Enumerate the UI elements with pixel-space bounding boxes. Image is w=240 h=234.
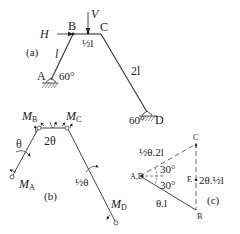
hinge-A-icon [10,175,14,179]
rotation-arc-AB-icon [16,151,30,156]
figure-c: A,D C ½θ.2l 30° 30° E 2θ.½l θ.l (c) B [130,133,224,221]
label-angle-upper: 30° [160,163,175,175]
diagram-canvas: H B V C ½l (a) l A 60° 2l 60° D MB MC [0,0,240,234]
label-length-BC: ½l [82,37,93,49]
label-MA: MA [18,177,35,192]
figure-c-tag: (c) [207,194,220,207]
label-AD: A,D [130,172,144,181]
label-length-CD: 2l [131,64,141,78]
load-point-dot [87,32,90,35]
label-displacement-AD-C: ½θ.2l [139,146,164,158]
label-A: A [37,69,46,83]
rotation-arc-BC-icon [50,122,56,128]
moment-arrow-B-icon [35,126,36,133]
joint-B-dot [72,33,75,36]
moment-arrow-C2-icon [70,124,72,128]
label-B: B [68,19,76,33]
moment-arrow-C-icon [62,123,65,126]
label-displacement-AD-B: θ.l [156,197,167,209]
deflected-member-CD [68,129,115,221]
moment-arrow-B2-icon [41,123,44,126]
point-E-dot [195,179,198,182]
label-MB: MB [21,109,37,124]
label-angle-lower: 30° [160,179,175,191]
label-length-AB: l [55,47,59,61]
figure-a-tag: (a) [26,46,39,59]
hinge-C-icon [65,126,69,130]
hinge-B-icon [37,126,41,130]
label-rotation-BC: 2θ [44,134,56,148]
label-C-point: C [193,133,198,142]
label-angle-D: 60° [129,114,144,126]
label-C: C [100,20,108,34]
label-MC: MC [65,109,81,124]
moment-arrow-D-icon [107,215,110,219]
label-D: D [155,113,164,127]
label-displacement-CB: 2θ.½l [199,174,224,186]
label-angle-A: 60° [59,70,74,82]
label-rotation-AB: θ [16,137,22,151]
label-MD: MD [110,197,127,212]
label-rotation-CD: ½θ [75,176,89,188]
figure-b-tag: (b) [44,190,57,203]
label-H: H [39,27,50,41]
figure-b: MB MC θ 2θ MA (b) ½θ MD [10,109,127,225]
figure-a: H B V C ½l (a) l A 60° 2l 60° D [26,7,164,127]
label-E: E [187,175,192,184]
mechanism-diagram: H B V C ½l (a) l A 60° 2l 60° D MB MC [0,0,240,234]
hinge-D-icon [114,221,118,225]
label-B-point: B [197,212,202,221]
label-V: V [91,7,100,21]
